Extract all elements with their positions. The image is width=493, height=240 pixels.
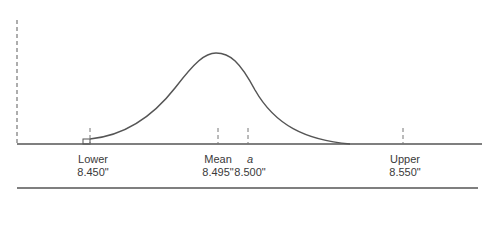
mean-value: 8.495" [202,166,233,179]
mean-label: Mean 8.495" [202,153,233,179]
a-label: a 8.500" [234,153,265,179]
lower-label: Lower 8.450" [77,153,108,179]
lower-name: Lower [77,153,108,166]
lower-limit-box [83,139,90,144]
mean-name: Mean [202,153,233,166]
a-name: a [234,153,265,166]
upper-label: Upper 8.550" [389,153,420,179]
upper-value: 8.550" [389,166,420,179]
bell-curve [90,53,350,144]
upper-name: Upper [389,153,420,166]
lower-value: 8.450" [77,166,108,179]
a-value: 8.500" [234,166,265,179]
